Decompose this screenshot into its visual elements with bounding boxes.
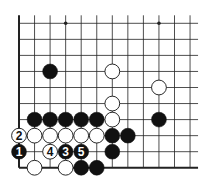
black-stone-5: 5: [74, 144, 89, 159]
white-stone: [27, 128, 42, 143]
black-stone: [74, 112, 89, 127]
move-number-label: 5: [78, 145, 85, 159]
white-stone: [89, 128, 104, 143]
white-stone: [27, 160, 42, 175]
white-stone: [105, 96, 120, 111]
move-number-label: 4: [47, 145, 54, 159]
black-stone: [27, 112, 42, 127]
star-point-icon: [157, 22, 161, 26]
white-stone: [105, 112, 120, 127]
white-stone: [43, 128, 58, 143]
go-board: 21435: [0, 0, 217, 194]
black-stone: [89, 112, 104, 127]
black-stone-1: 1: [12, 144, 27, 159]
white-stone: [58, 160, 73, 175]
black-stone-3: 3: [58, 144, 73, 159]
white-stone: [105, 64, 120, 79]
white-stone-2: 2: [12, 128, 27, 143]
black-stone: [43, 112, 58, 127]
white-stone: [152, 80, 167, 95]
move-number-label: 1: [16, 145, 23, 159]
white-stone: [74, 128, 89, 143]
move-number-label: 2: [16, 129, 23, 143]
white-stone: [58, 128, 73, 143]
move-number-label: 3: [62, 145, 69, 159]
star-point-icon: [64, 22, 68, 26]
black-stone: [105, 144, 120, 159]
black-stone: [58, 112, 73, 127]
black-stone: [105, 128, 120, 143]
black-stone: [43, 64, 58, 79]
black-stone: [89, 160, 104, 175]
black-stone: [152, 112, 167, 127]
white-stone-4: 4: [43, 144, 58, 159]
black-stone: [74, 160, 89, 175]
black-stone: [120, 128, 135, 143]
